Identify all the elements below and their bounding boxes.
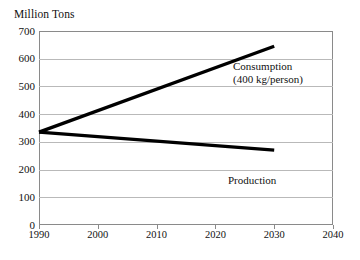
x-axis-tick-label: 2000 [76, 229, 120, 241]
series-annotation-consumption-label: Consumption [233, 60, 292, 72]
x-axis-tick-mark [98, 225, 99, 229]
y-axis-tick-label: 300 [1, 136, 35, 147]
y-axis-tick-label: 400 [1, 109, 35, 120]
chart-container: Million Tons 0100200300400500600700 1990… [0, 0, 360, 260]
y-axis-tick-label: 600 [1, 53, 35, 64]
x-axis-tick-label: 2010 [135, 229, 179, 241]
y-axis-tick-label: 200 [1, 164, 35, 175]
x-axis-tick-label: 2020 [193, 229, 237, 241]
x-axis-tick-label: 2030 [252, 229, 296, 241]
y-axis-tick-label: 500 [1, 81, 35, 92]
x-axis-tick-mark [274, 225, 275, 229]
series-line-production [39, 132, 274, 150]
x-axis-tick-mark [333, 225, 334, 229]
x-axis-tick-label: 1990 [17, 229, 61, 241]
x-axis-tick-label: 2040 [311, 229, 355, 241]
series-annotation-production: Production [228, 174, 276, 187]
chart-axis-title: Million Tons [14, 8, 75, 21]
x-axis-tick-mark [39, 225, 40, 229]
y-axis-tick-label: 700 [1, 26, 35, 37]
x-axis-tick-mark [215, 225, 216, 229]
series-annotation-production-label: Production [228, 174, 276, 186]
y-axis-tick-label: 100 [1, 192, 35, 203]
series-annotation-consumption: Consumption (400 kg/person) [233, 60, 303, 85]
x-axis-tick-mark [157, 225, 158, 229]
series-annotation-consumption-sublabel: (400 kg/person) [233, 73, 303, 86]
